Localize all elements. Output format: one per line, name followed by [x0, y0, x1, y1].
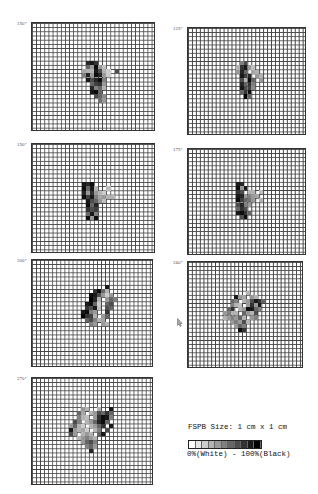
heatmap-cell: [259, 198, 263, 202]
heatmap-grid: [31, 377, 153, 485]
panel-angle-label: 240°: [173, 260, 183, 265]
heatmap-cell: [102, 86, 106, 90]
legend-colorbar: [188, 440, 262, 449]
heatmap-cell: [101, 432, 105, 436]
panel-angle-label: 175°: [173, 147, 183, 152]
heatmap-cell: [259, 190, 263, 194]
panel-angle-label: 125°: [173, 26, 183, 31]
heatmap-cell: [246, 320, 250, 324]
heatmap-cell: [94, 216, 98, 220]
heatmap-cell: [105, 322, 109, 326]
heatmap-grid: [31, 22, 155, 131]
heatmap-cell: [111, 195, 115, 199]
mouse-cursor-icon: [177, 318, 183, 327]
heatmap-cell: [105, 428, 109, 432]
panel-angle-label: 150°: [17, 142, 27, 147]
heatmap-cell: [248, 203, 252, 207]
heatmap-cell: [261, 299, 265, 303]
heatmap-cell: [248, 211, 252, 215]
heatmap-cell: [109, 424, 113, 428]
heatmap-cell: [93, 444, 97, 448]
legend-title: FSPB Size: 1 cm x 1 cm: [188, 423, 287, 431]
heatmap-cell: [258, 307, 262, 311]
heatmap-cell: [106, 73, 110, 77]
heatmap-cell: [248, 94, 252, 98]
heatmap-grid: [187, 148, 306, 255]
heatmap-cell: [251, 198, 255, 202]
legend-range-label: 0%(White) - 100%(Black): [187, 450, 291, 458]
heatmap-cell: [89, 449, 93, 453]
panel-angle-label: 150°: [17, 21, 27, 26]
heatmap-cell: [102, 98, 106, 102]
heatmap-cell: [109, 306, 113, 310]
heatmap-cell: [259, 78, 263, 82]
heatmap-grid: [31, 143, 155, 253]
heatmap-cell: [254, 316, 258, 320]
heatmap-cell: [115, 69, 119, 73]
heatmap-grid: [187, 261, 303, 368]
heatmap-cell: [93, 322, 97, 326]
heatmap-cell: [244, 215, 248, 219]
heatmap-cell: [242, 328, 246, 332]
panel-angle-label: 270°: [17, 376, 27, 381]
heatmap-cell: [113, 297, 117, 301]
heatmap-cell: [102, 199, 106, 203]
heatmap-cell: [251, 86, 255, 90]
heatmap-cell: [105, 314, 109, 318]
panel-angle-label: 200°: [17, 258, 27, 263]
heatmap-grid: [31, 259, 153, 367]
legend-swatch: [254, 441, 261, 448]
heatmap-cell: [109, 415, 113, 419]
heatmap-cell: [97, 306, 101, 310]
heatmap-cell: [106, 186, 110, 190]
heatmap-grid: [187, 27, 306, 135]
